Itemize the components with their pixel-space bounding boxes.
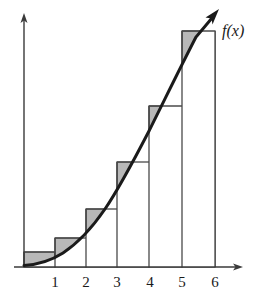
x-tick-label-5: 5 [178,274,186,290]
x-tick-label-2: 2 [82,274,90,290]
x-tick-label-1: 1 [51,274,59,290]
x-tick-label-3: 3 [113,274,121,290]
x-tick-label-6: 6 [211,274,219,290]
riemann-sum-figure: 1 2 3 4 5 6 f(x) [0,0,261,294]
y-axis [21,13,28,267]
riemann-sum-chart: 1 2 3 4 5 6 f(x) [0,0,261,294]
function-label: f(x) [222,22,244,40]
x-tick-label-4: 4 [146,274,154,290]
x-tick-labels-group: 1 2 3 4 5 6 [51,274,219,290]
